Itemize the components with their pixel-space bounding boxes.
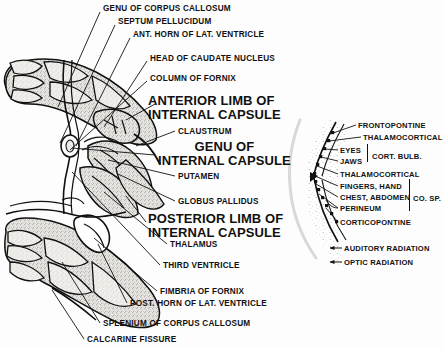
- label-eyes: EYES: [340, 147, 361, 155]
- label-cort-bulb: CORT. BULB.: [372, 152, 422, 161]
- cort-bulb-bracket: [367, 144, 368, 162]
- label-chest-abdomen: CHEST, ABDOMEN: [340, 194, 410, 202]
- label-jaws: JAWS: [340, 158, 362, 166]
- label-fingers-hand: FINGERS, HAND: [340, 183, 402, 191]
- label-thalamocortical-1: THALAMOCORTICAL: [363, 134, 442, 142]
- label-genu-corpus-callosum: GENU OF CORPUS CALLOSUM: [103, 5, 231, 13]
- label-co-sp: CO. SP.: [413, 194, 441, 203]
- label-globus-pallidus: GLOBUS PALLIDUS: [178, 198, 259, 206]
- label-head-caudate-nucleus: HEAD OF CAUDATE NUCLEUS: [150, 55, 275, 63]
- label-third-ventricle: THIRD VENTRICLE: [163, 262, 240, 270]
- label-septum-pellucidum: SEPTUM PELLUCIDUM: [118, 18, 211, 26]
- label-genu-internal-capsule: GENU OF INTERNAL CAPSULE: [158, 140, 291, 167]
- label-splenium-corpus-callosum: SPLENIUM OF CORPUS CALLOSUM: [103, 320, 250, 328]
- anatomy-figure: GENU OF CORPUS CALLOSUM SEPTUM PELLUCIDU…: [0, 0, 444, 349]
- label-thalamocortical-2: THALAMOCORTICAL: [340, 171, 419, 179]
- label-frontopontine: FRONTOPONTINE: [358, 122, 426, 130]
- label-post-horn-lat-ventricle: POST. HORN OF LAT. VENTRICLE: [130, 300, 267, 308]
- label-perineum: PERINEUM: [340, 205, 381, 213]
- label-column-of-fornix: COLUMN OF FORNIX: [150, 75, 236, 83]
- label-auditory-radiation: AUDITORY RADIATION: [344, 245, 430, 253]
- label-calcarine-fissure: CALCARINE FISSURE: [87, 336, 176, 344]
- label-anterior-limb-internal-capsule: ANTERIOR LIMB OF INTERNAL CAPSULE: [148, 94, 281, 121]
- label-optic-radiation: OPTIC RADIATION: [344, 259, 413, 267]
- anterior-limb-line2: INTERNAL CAPSULE: [148, 107, 281, 122]
- co-sp-bracket: [409, 179, 410, 211]
- posterior-limb-line2: INTERNAL CAPSULE: [148, 225, 281, 240]
- label-posterior-limb-internal-capsule: POSTERIOR LIMB OF INTERNAL CAPSULE: [148, 212, 283, 239]
- genu-line2: INTERNAL CAPSULE: [158, 154, 291, 168]
- genu-line1: GENU OF: [158, 140, 291, 154]
- label-thalamus: THALAMUS: [170, 241, 218, 249]
- label-fimbria-of-fornix: FIMBRIA OF FORNIX: [160, 288, 244, 296]
- label-claustrum: CLAUSTRUM: [178, 128, 232, 136]
- label-ant-horn-lat-ventricle: ANT. HORN OF LAT. VENTRICLE: [133, 31, 264, 39]
- label-putamen: PUTAMEN: [178, 173, 219, 181]
- label-corticopontine: CORTICOPONTINE: [340, 219, 411, 227]
